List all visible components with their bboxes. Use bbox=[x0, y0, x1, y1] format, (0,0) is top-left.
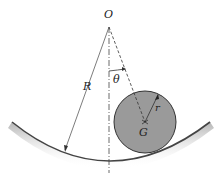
label-O: O bbox=[104, 9, 113, 20]
radius-R-arrowhead bbox=[64, 145, 68, 152]
label-r: r bbox=[155, 103, 160, 113]
label-theta: θ bbox=[113, 74, 120, 85]
label-G: G bbox=[139, 127, 148, 138]
diagram-canvas: O R θ r G bbox=[0, 0, 223, 175]
label-R: R bbox=[83, 81, 91, 92]
diagram-svg bbox=[0, 0, 223, 175]
curved-surface bbox=[8, 122, 214, 169]
